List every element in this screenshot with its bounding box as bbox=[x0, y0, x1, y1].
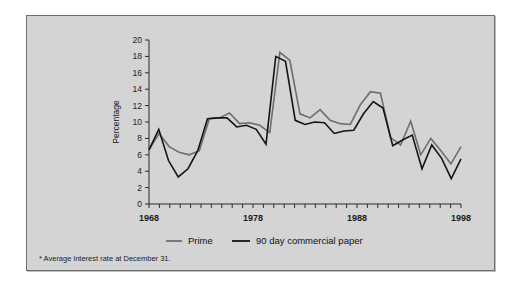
y-axis-title: Percentage bbox=[111, 100, 121, 144]
x-tick-label: 1988 bbox=[347, 213, 367, 223]
legend-item-prime: Prime bbox=[166, 235, 213, 246]
y-tick-label: 4 bbox=[137, 166, 142, 176]
series-line-commercial-paper bbox=[149, 56, 461, 178]
y-tick-label: 10 bbox=[133, 117, 143, 127]
y-tick-label: 2 bbox=[137, 183, 142, 193]
series-lines bbox=[149, 52, 461, 178]
y-tick-label: 20 bbox=[133, 35, 143, 45]
y-tick-label: 6 bbox=[137, 150, 142, 160]
y-tick-label: 16 bbox=[133, 68, 143, 78]
y-axis-title-text: Percentage bbox=[111, 100, 121, 144]
y-tick-label: 12 bbox=[133, 101, 143, 111]
y-axis: 02468101214161820 bbox=[133, 35, 149, 209]
x-tick-label: 1998 bbox=[451, 213, 471, 223]
chart-footnote: * Average interest rate at December 31. bbox=[39, 254, 171, 263]
x-tick-label: 1968 bbox=[139, 213, 159, 223]
footnote-label: * Average interest rate at December 31. bbox=[39, 254, 171, 263]
y-tick-label: 14 bbox=[133, 84, 143, 94]
figure-root: 02468101214161820 1968197819881998 Perce… bbox=[0, 0, 517, 285]
legend-label: 90 day commercial paper bbox=[256, 235, 363, 246]
legend-label: Prime bbox=[188, 235, 213, 246]
y-tick-label: 8 bbox=[137, 133, 142, 143]
series-line-prime bbox=[149, 52, 461, 164]
legend-item-commercial-paper: 90 day commercial paper bbox=[232, 235, 363, 246]
x-tick-label: 1978 bbox=[243, 213, 263, 223]
interest-rate-line-chart: 02468101214161820 1968197819881998 Perce… bbox=[27, 16, 496, 272]
chart-frame: 02468101214161820 1968197819881998 Perce… bbox=[26, 15, 495, 271]
y-tick-label: 18 bbox=[133, 51, 143, 61]
y-tick-label: 0 bbox=[137, 199, 142, 209]
chart-legend: Prime90 day commercial paper bbox=[166, 235, 363, 246]
x-axis: 1968197819881998 bbox=[139, 204, 471, 223]
